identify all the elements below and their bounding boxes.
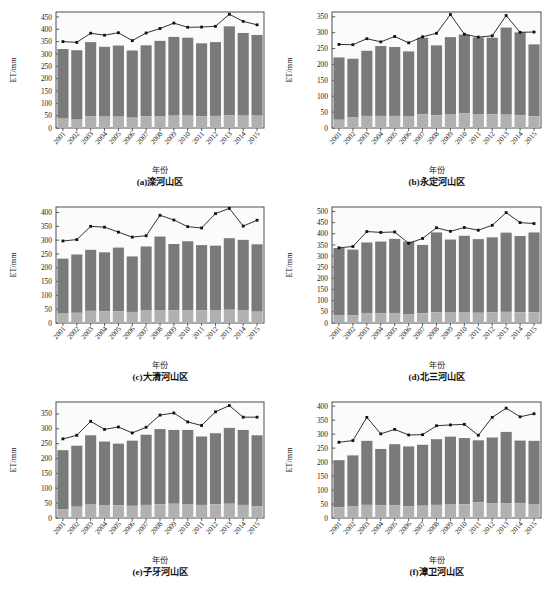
y-tick-label: 250 [317, 444, 328, 453]
bar-lower-segment [403, 506, 414, 518]
bar-lower-segment [71, 120, 82, 128]
bar-upper-segment [403, 242, 414, 315]
bar-upper-segment [85, 435, 96, 504]
x-tick-label: 2001 [52, 520, 68, 536]
x-tick-label: 2014 [232, 520, 248, 536]
chart-panel-c: 050100150200250300350400ET/mm20012002200… [0, 195, 276, 390]
y-tick-label: 250 [317, 263, 328, 272]
x-tick-label: 2015 [246, 520, 262, 536]
y-tick-label: 200 [317, 60, 328, 69]
x-tick-label: 2007 [411, 325, 427, 341]
bar-upper-segment [528, 441, 539, 505]
data-point-marker [533, 31, 536, 34]
y-tick-label: 100 [41, 291, 52, 300]
bar-lower-segment [333, 507, 344, 518]
bar-upper-segment [487, 38, 498, 115]
bar-lower-segment [528, 505, 539, 518]
data-point-marker [228, 13, 231, 16]
bar-lower-segment [252, 506, 263, 518]
y-tick-label: 400 [41, 208, 52, 217]
y-tick-label: 150 [317, 76, 328, 85]
bar-lower-segment [375, 116, 386, 128]
panel-caption: (e)子牙河山区 [132, 566, 187, 577]
x-tick-label: 2009 [439, 130, 455, 146]
bar-upper-segment [238, 430, 249, 505]
bar-lower-segment [501, 503, 512, 518]
data-point-marker [131, 39, 134, 42]
y-tick-label: 200 [41, 263, 52, 272]
bar-lower-segment [210, 116, 221, 128]
data-point-marker [379, 432, 382, 435]
bar-lower-segment [347, 315, 358, 323]
data-point-marker [365, 230, 368, 233]
bar-upper-segment [99, 252, 110, 311]
panel-caption: (d)北三河山区 [408, 371, 464, 382]
bar-upper-segment [528, 232, 539, 312]
bar-lower-segment [224, 504, 235, 518]
x-tick-label: 2005 [107, 130, 123, 146]
y-tick-label: 50 [321, 500, 329, 509]
y-tick-label: 200 [317, 458, 328, 467]
bar-lower-segment [501, 312, 512, 323]
bar-upper-segment [71, 50, 82, 119]
bar-upper-segment [515, 236, 526, 312]
x-tick-label: 2002 [66, 130, 82, 146]
bar-lower-segment [528, 312, 539, 323]
data-point-marker [338, 43, 341, 46]
data-point-marker [449, 424, 452, 427]
y-tick-label: 100 [41, 99, 52, 108]
y-tick-label: 0 [324, 124, 328, 133]
data-point-marker [117, 426, 120, 429]
data-point-marker [256, 416, 259, 419]
bar-upper-segment [71, 255, 82, 313]
data-point-marker [407, 41, 410, 44]
x-tick-label: 2006 [398, 325, 414, 341]
bar-upper-segment [403, 446, 414, 506]
data-point-marker [103, 428, 106, 431]
bar-lower-segment [347, 506, 358, 518]
bar-lower-segment [99, 117, 110, 128]
y-tick-label: 150 [41, 277, 52, 286]
x-tick-label: 2004 [370, 130, 386, 146]
x-tick-label: 2007 [411, 520, 427, 536]
x-tick-label: 2013 [495, 520, 511, 536]
x-tick-label: 2001 [52, 130, 68, 146]
bar-upper-segment [224, 238, 235, 310]
bar-upper-segment [57, 259, 68, 314]
x-tick-label: 2013 [495, 130, 511, 146]
bar-upper-segment [431, 439, 442, 505]
y-axis-title: ET/mm [9, 252, 18, 278]
bar-upper-segment [375, 242, 386, 314]
data-point-marker [62, 437, 65, 440]
data-point-marker [145, 32, 148, 35]
x-tick-label: 2005 [384, 130, 400, 146]
x-tick-label: 2013 [218, 520, 234, 536]
bar-lower-segment [196, 116, 207, 128]
bar-upper-segment [238, 240, 249, 311]
x-axis-title: 年份 [429, 360, 445, 370]
bar-upper-segment [361, 441, 372, 505]
y-tick-label: 150 [41, 469, 52, 478]
bar-upper-segment [141, 435, 152, 505]
data-point-marker [186, 26, 189, 29]
bar-upper-segment [389, 239, 400, 313]
y-tick-label: 50 [45, 499, 53, 508]
bar-lower-segment [85, 116, 96, 128]
bar-lower-segment [431, 312, 442, 323]
data-point-marker [533, 412, 536, 415]
bar-lower-segment [238, 116, 249, 128]
bar-upper-segment [501, 28, 512, 115]
bar-upper-segment [389, 47, 400, 116]
y-tick-label: 0 [48, 514, 52, 523]
x-tick-label: 2004 [93, 520, 109, 536]
x-tick-label: 2009 [163, 520, 179, 536]
y-tick-label: 300 [317, 252, 328, 261]
panel-caption: (c)大清河山区 [132, 371, 187, 382]
bar-lower-segment [515, 503, 526, 518]
bar-upper-segment [154, 429, 165, 504]
bar-lower-segment [431, 115, 442, 128]
bar-upper-segment [501, 233, 512, 312]
bar-lower-segment [127, 506, 138, 518]
y-tick-label: 300 [317, 430, 328, 439]
x-tick-label: 2004 [370, 325, 386, 341]
